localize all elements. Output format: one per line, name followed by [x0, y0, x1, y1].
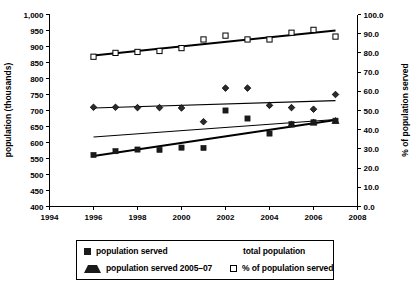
- y-right-tick-label: 100.0: [364, 11, 385, 20]
- y-left-tick-label: 850: [30, 59, 44, 68]
- x-tick-label: 1994: [41, 213, 59, 222]
- y-axis-right-ticks: 0.010.020.030.040.050.060.070.080.090.01…: [358, 11, 385, 212]
- legend-row-2: population served 2005–07 % of populatio…: [84, 260, 328, 277]
- legend-label-population-served-2005-07: population served 2005–07: [106, 264, 212, 273]
- marker-open-square: [311, 27, 316, 32]
- legend-item-population-served: population served: [84, 247, 230, 256]
- marker-diamond: [134, 104, 141, 111]
- chart-figure: 4004505005506006507007508008509009501,00…: [0, 0, 418, 290]
- x-tick-label: 2000: [173, 213, 191, 222]
- y-left-tick-label: 950: [30, 27, 44, 36]
- trendline: [94, 120, 336, 156]
- x-tick-label: 2004: [261, 213, 279, 222]
- y-right-tick-label: 70.0: [364, 68, 380, 77]
- marker-open-square: [91, 54, 96, 59]
- y-axis-left-ticks: 4004505005506006507007508008509009501,00…: [23, 11, 49, 212]
- filled-square-icon: [84, 248, 91, 255]
- marker-open-square: [223, 33, 228, 38]
- marker-diamond: [288, 104, 295, 111]
- marker-filled-square: [245, 116, 250, 121]
- y-right-tick-label: 20.0: [364, 164, 380, 173]
- marker-filled-square: [179, 145, 184, 150]
- y-left-tick-label: 1,000: [23, 11, 44, 20]
- marker-diamond: [222, 85, 229, 92]
- x-axis-ticks: 19941996199820002002200420062008: [41, 207, 367, 222]
- legend-item-total-population: total population: [230, 247, 328, 256]
- marker-diamond: [244, 85, 251, 92]
- x-tick-label: 2002: [217, 213, 235, 222]
- legend-item-population-served-2005-07: population served 2005–07: [84, 264, 230, 273]
- marker-filled-square: [201, 145, 206, 150]
- legend-label-total-population: total population: [243, 247, 305, 256]
- filled-triangle-icon: [84, 265, 101, 273]
- marker-filled-square: [157, 147, 162, 152]
- legend-row-1: population served total population: [84, 243, 328, 260]
- trendline: [94, 119, 336, 137]
- y-right-tick-label: 60.0: [364, 87, 380, 96]
- y-right-tick-label: 80.0: [364, 49, 380, 58]
- legend-label-percent-of-population-served: % of population served: [242, 264, 333, 273]
- y-left-tick-label: 500: [30, 171, 44, 180]
- y-left-tick-label: 550: [30, 155, 44, 164]
- y-left-tick-label: 900: [30, 43, 44, 52]
- y-right-tick-label: 90.0: [364, 30, 380, 39]
- marker-diamond: [156, 104, 163, 111]
- open-square-icon: [230, 265, 237, 272]
- y-left-tick-label: 650: [30, 123, 44, 132]
- y-right-tick-label: 40.0: [364, 126, 380, 135]
- marker-filled-square: [91, 152, 96, 157]
- trendline-group: [94, 30, 336, 156]
- trendline: [94, 101, 336, 108]
- trendline: [94, 30, 336, 55]
- chart-legend: population served total population popul…: [76, 240, 334, 280]
- marker-open-square: [157, 48, 162, 53]
- legend-label-population-served: population served: [96, 247, 168, 256]
- marker-diamond: [310, 106, 317, 113]
- y-right-tick-label: 50.0: [364, 107, 380, 116]
- marker-filled-square: [135, 147, 140, 152]
- x-tick-label: 1998: [129, 213, 147, 222]
- marker-open-square: [289, 30, 294, 35]
- marker-open-square: [113, 50, 118, 55]
- marker-open-square: [267, 37, 272, 42]
- legend-item-percent-of-population-served: % of population served: [230, 264, 333, 273]
- marker-open-square: [201, 37, 206, 42]
- x-tick-label: 1996: [85, 213, 103, 222]
- y-axis-right-title: % of population served: [400, 63, 410, 157]
- diamond-icon: [230, 248, 238, 256]
- marker-open-square: [179, 46, 184, 51]
- x-tick-label: 2008: [349, 213, 367, 222]
- marker-diamond: [200, 118, 207, 125]
- marker-open-square: [245, 37, 250, 42]
- y-left-tick-label: 800: [30, 75, 44, 84]
- marker-diamond: [332, 91, 339, 98]
- marker-filled-square: [267, 131, 272, 136]
- marker-open-square: [135, 49, 140, 54]
- marker-filled-square: [223, 108, 228, 113]
- marker-filled-square: [113, 149, 118, 154]
- y-right-tick-label: 0.0: [364, 203, 376, 212]
- y-right-tick-label: 10.0: [364, 183, 380, 192]
- y-left-tick-label: 700: [30, 107, 44, 116]
- y-left-tick-label: 600: [30, 139, 44, 148]
- marker-diamond: [90, 104, 97, 111]
- y-left-tick-label: 450: [30, 187, 44, 196]
- y-right-tick-label: 30.0: [364, 145, 380, 154]
- x-tick-label: 2006: [305, 213, 323, 222]
- marker-diamond: [112, 104, 119, 111]
- y-left-tick-label: 400: [30, 203, 44, 212]
- y-axis-left-title: population (thousands): [3, 63, 13, 158]
- marker-open-square: [333, 34, 338, 39]
- y-left-tick-label: 750: [30, 91, 44, 100]
